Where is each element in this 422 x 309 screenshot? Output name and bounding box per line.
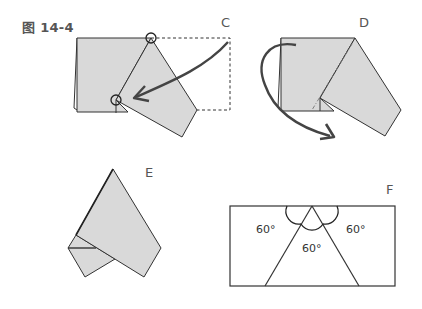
angle-label-right: 60° (346, 223, 366, 236)
arrowhead-icon (320, 124, 334, 139)
panel-e-diagram (68, 169, 161, 277)
angle-label-center: 60° (302, 242, 322, 255)
panel-d-diagram (262, 38, 401, 139)
panel-f-diagram: 60° 60° 60° (230, 206, 395, 286)
angle-label-left: 60° (256, 223, 276, 236)
panel-c-diagram (74, 33, 230, 137)
